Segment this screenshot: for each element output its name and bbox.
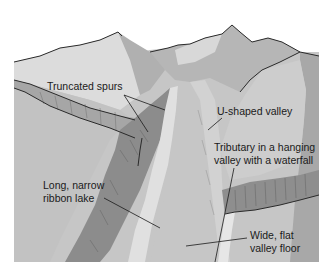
label-ribbon-lake-line1: Long, narrow xyxy=(43,179,104,191)
label-u-shaped-valley: U-shaped valley xyxy=(217,105,292,117)
label-ribbon-lake-line2: ribbon lake xyxy=(43,192,94,204)
label-valley-floor-line2: valley floor xyxy=(250,242,300,254)
label-truncated-spurs: Truncated spurs xyxy=(47,80,122,92)
label-tributary-line2: valley with a waterfall xyxy=(214,154,313,166)
label-valley-floor-line1: Wide, flat xyxy=(250,229,294,241)
label-tributary-line1: Tributary in a hanging xyxy=(214,141,315,153)
glacial-valley-diagram: Truncated spurs U-shaped valley Tributar… xyxy=(0,0,328,276)
